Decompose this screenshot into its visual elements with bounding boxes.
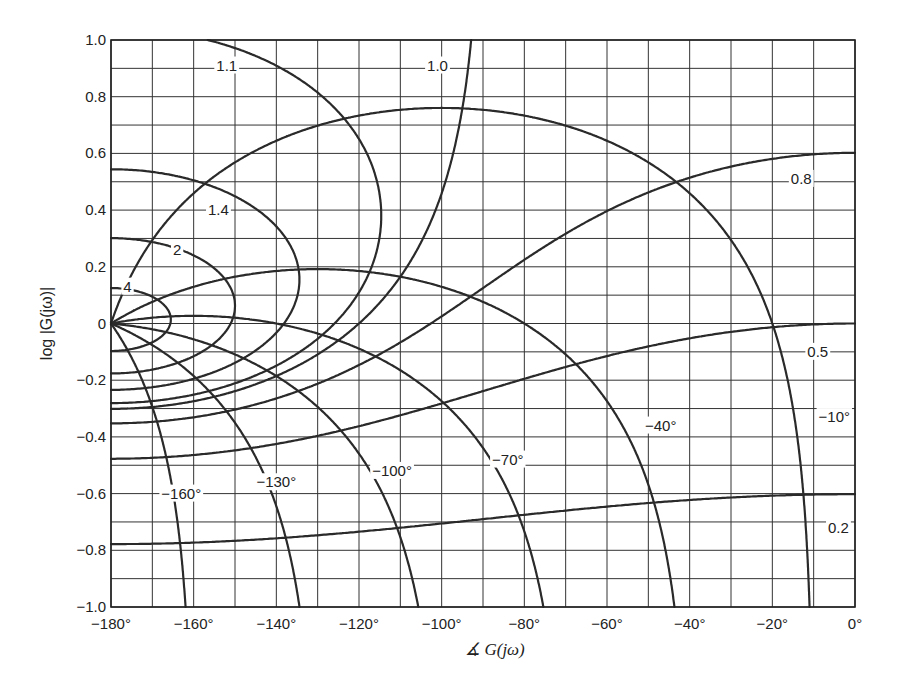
curve-label: 0.2 — [826, 519, 851, 536]
y-tick-label: 1.0 — [85, 31, 106, 48]
y-tick-label: 0.6 — [85, 144, 106, 161]
curve-label-text: −10° — [819, 408, 850, 425]
x-tick-label: −180° — [91, 615, 131, 632]
m-contour-1-4 — [111, 169, 299, 390]
y-tick-label: −0.4 — [76, 428, 106, 445]
curve-label-text: 0.5 — [807, 343, 828, 360]
y-tick-label: −1.0 — [76, 598, 106, 615]
nichols-chart: 1.11.01.4240.80.50.2−10°−40°−70°−100°−13… — [0, 0, 908, 690]
curve-label: 1.4 — [206, 201, 231, 218]
x-tick-label: −40° — [674, 615, 705, 632]
y-axis-title: log |G(jω)| — [38, 287, 55, 360]
curve-label-text: 1.4 — [208, 201, 229, 218]
curve-label-text: −40° — [645, 417, 676, 434]
y-tick-label: 0.4 — [85, 201, 106, 218]
y-tick-label: 0.8 — [85, 88, 106, 105]
curve-label: −100° — [370, 462, 414, 479]
curve-label-text: 0.2 — [828, 519, 849, 536]
y-axis-ticks: 1.00.80.60.40.20−0.2−0.4−0.6−0.8−1.0 — [76, 31, 106, 615]
curve-label-text: 0.8 — [791, 170, 812, 187]
curve-label: 4 — [121, 278, 133, 295]
x-tick-label: −160° — [174, 615, 214, 632]
x-tick-label: −80° — [509, 615, 540, 632]
curve-label-text: 4 — [123, 278, 131, 295]
curve-label-text: 1.1 — [216, 57, 237, 74]
curve-label-text: 1.0 — [427, 57, 448, 74]
curve-label-text: −100° — [372, 462, 412, 479]
curve-label: 1.1 — [214, 57, 239, 74]
m-contour-1-1 — [111, 40, 381, 403]
curve-label: −10° — [817, 408, 852, 425]
x-tick-label: 0° — [848, 615, 862, 632]
curve-label: 1.0 — [425, 57, 450, 74]
x-axis-title: ∡ G(jω) — [465, 640, 525, 659]
y-tick-label: −0.2 — [76, 371, 106, 388]
chart-grid — [111, 40, 855, 607]
y-axis-title-text: log |G(jω)| — [38, 287, 55, 360]
curve-label-text: −160° — [161, 485, 201, 502]
curve-label-text: −70° — [492, 451, 523, 468]
curve-label: 0.8 — [789, 170, 814, 187]
x-tick-label: −140° — [256, 615, 296, 632]
y-tick-label: −0.6 — [76, 485, 106, 502]
x-axis-ticks: −180°−160°−140°−120°−100°−80°−60°−40°−20… — [91, 615, 862, 632]
x-tick-label: −100° — [422, 615, 462, 632]
n-contour-40 — [111, 269, 674, 607]
n-contour-10 — [111, 108, 810, 607]
n-contour-160 — [111, 325, 186, 607]
y-tick-label: 0 — [98, 315, 106, 332]
curve-label: −160° — [159, 485, 203, 502]
x-tick-label: −120° — [339, 615, 379, 632]
curve-label: 2 — [171, 241, 183, 258]
curve-label: −70° — [490, 451, 525, 468]
curve-label: −130° — [254, 473, 298, 490]
curve-label: −40° — [643, 417, 678, 434]
y-tick-label: 0.2 — [85, 258, 106, 275]
curve-label-text: 2 — [173, 241, 181, 258]
y-tick-label: −0.8 — [76, 541, 106, 558]
x-tick-label: −20° — [757, 615, 788, 632]
curve-label-text: −130° — [256, 473, 296, 490]
n-contour-70 — [111, 316, 543, 607]
curve-labels: 1.11.01.4240.80.50.2−10°−40°−70°−100°−13… — [121, 57, 852, 536]
x-tick-label: −60° — [591, 615, 622, 632]
curve-label: 0.5 — [805, 343, 830, 360]
